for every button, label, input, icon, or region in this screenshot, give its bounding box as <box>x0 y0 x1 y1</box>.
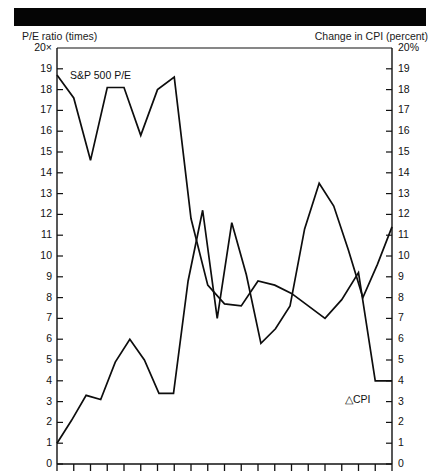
left-tick-label: 12 <box>8 208 52 218</box>
left-tick-label: 10 <box>8 250 52 260</box>
left-tick-label: 4 <box>8 375 52 385</box>
left-tick-label: 5 <box>8 354 52 364</box>
left-tick-label: 13 <box>8 188 52 198</box>
right-tick-label: 12 <box>398 208 410 218</box>
right-tick-label: 5 <box>398 354 404 364</box>
right-tick-label: 10 <box>398 250 410 260</box>
left-tick-label: 6 <box>8 333 52 343</box>
right-tick-label: 11 <box>398 229 409 239</box>
right-tick-label: 6 <box>398 333 404 343</box>
left-tick-label: 14 <box>8 167 52 177</box>
left-tick-label: 0 <box>8 458 52 468</box>
right-tick-label: 0 <box>398 458 404 468</box>
right-tick-label: 19 <box>398 63 410 73</box>
x-axis-ticks <box>57 464 392 471</box>
right-tick-label: 7 <box>398 312 404 322</box>
left-tick-label: 7 <box>8 312 52 322</box>
left-tick-label: 3 <box>8 396 52 406</box>
right-tick-label: 1 <box>398 437 404 447</box>
left-tick-label: 19 <box>8 63 52 73</box>
left-tick-label: 8 <box>8 292 52 302</box>
data-series-layer <box>57 75 392 443</box>
right-tick-label: 16 <box>398 125 410 135</box>
right-tick-label: 14 <box>398 167 410 177</box>
left-tick-label: 18 <box>8 84 52 94</box>
delta-cpi-label: △CPI <box>345 393 371 405</box>
right-tick-label: 8 <box>398 292 404 302</box>
right-tick-label: 15 <box>398 146 410 156</box>
right-tick-label: 9 <box>398 271 404 281</box>
axis-lines <box>57 48 392 464</box>
right-tick-label: 3 <box>398 396 404 406</box>
left-axis-ticks <box>57 69 63 464</box>
right-tick-label: 13 <box>398 188 410 198</box>
right-tick-label: 20% <box>398 42 419 52</box>
left-tick-label: 1 <box>8 437 52 447</box>
right-tick-label: 17 <box>398 104 410 114</box>
right-tick-label: 18 <box>398 84 410 94</box>
left-tick-label: 16 <box>8 125 52 135</box>
left-tick-label: 20× <box>8 42 52 52</box>
sp500-pe-label: S&P 500 P/E <box>70 69 131 81</box>
right-tick-label: 2 <box>398 416 404 426</box>
right-axis-ticks <box>386 69 392 464</box>
left-tick-label: 9 <box>8 271 52 281</box>
chart-plot-area <box>0 0 440 476</box>
right-tick-label: 4 <box>398 375 404 385</box>
left-tick-label: 2 <box>8 416 52 426</box>
series-line-1 <box>57 183 392 443</box>
left-tick-label: 11 <box>8 229 52 239</box>
left-tick-label: 17 <box>8 104 52 114</box>
left-tick-label: 15 <box>8 146 52 156</box>
